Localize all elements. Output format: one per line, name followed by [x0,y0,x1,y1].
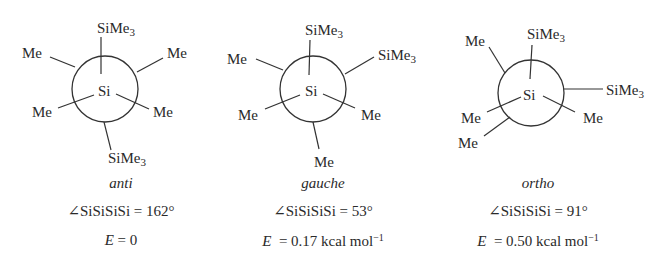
conformer-name-anti: anti [21,176,221,191]
conformer-name-ortho: ortho [438,176,638,191]
label-lower-left: Me [32,104,52,120]
bond-front-top [530,45,532,79]
bond-back-lower-left [484,117,510,136]
label-upper-left: Me [227,51,247,67]
bond-back-upper-left [50,57,75,67]
label-top: SiMe3 [97,20,136,38]
label-lower-right: Me [361,107,381,123]
center-atom-label: Si [98,83,111,99]
dihedral-angle-anti: ∠SiSiSiSi = 162° [21,204,221,219]
label-upper-right: Me [167,45,187,61]
bond-back-upper-left [489,47,505,73]
conformer-gauche: Si SiMe3 Me SiMe3 Me Me Me [227,22,417,170]
label-bottom: SiMe3 [108,150,147,168]
bond-front-lower-left [265,95,300,109]
label-upper-left: Me [22,45,42,61]
energy-ortho: E = 0.50 kcal mol−1 [438,233,638,249]
center-atom-label: Si [523,87,536,103]
label-top: SiMe3 [527,26,566,44]
dihedral-angle-ortho: ∠SiSiSiSi = 91° [438,204,638,219]
bond-back-upper-left [256,59,283,70]
label-lower-left-2: Me [458,135,478,151]
label-bottom: Me [314,154,334,170]
bond-front-top [309,40,310,75]
label-upper-left: Me [465,33,485,49]
label-right: SiMe3 [606,82,645,100]
energy-gauche: E = 0.17 kcal mol−1 [223,233,423,249]
label-lower-right: Me [583,110,603,126]
bond-front-lower-right [323,94,355,108]
center-atom-label: Si [305,83,318,99]
label-lower-left: Me [238,107,258,123]
conformer-ortho: Si SiMe3 Me SiMe3 Me Me Me [458,26,645,151]
bond-front-lower-left [487,97,521,112]
energy-anti: E = 0 [21,233,221,248]
label-lower-right: Me [153,104,173,120]
conformer-name-gauche: gauche [223,176,423,191]
label-upper-right: SiMe3 [378,47,417,65]
bond-back-upper-right [345,57,374,74]
label-top: SiMe3 [305,22,344,40]
bond-back-bottom [104,122,111,150]
label-lower-left: Me [461,110,481,126]
dihedral-angle-gauche: ∠SiSiSiSi = 53° [223,204,423,219]
bond-back-upper-right [137,58,163,72]
bond-back-bottom [313,122,319,149]
conformer-anti: Si SiMe3 Me Me Me Me SiMe3 [22,20,187,168]
